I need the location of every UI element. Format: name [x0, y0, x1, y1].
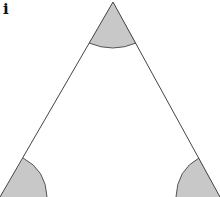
bottom-right-angle-marker	[176, 158, 220, 197]
triangle-diagram	[0, 0, 220, 197]
left-side	[0, 2, 113, 197]
bottom-left-angle-marker	[0, 158, 47, 197]
apex-angle-marker	[89, 2, 136, 48]
right-side	[113, 2, 220, 197]
